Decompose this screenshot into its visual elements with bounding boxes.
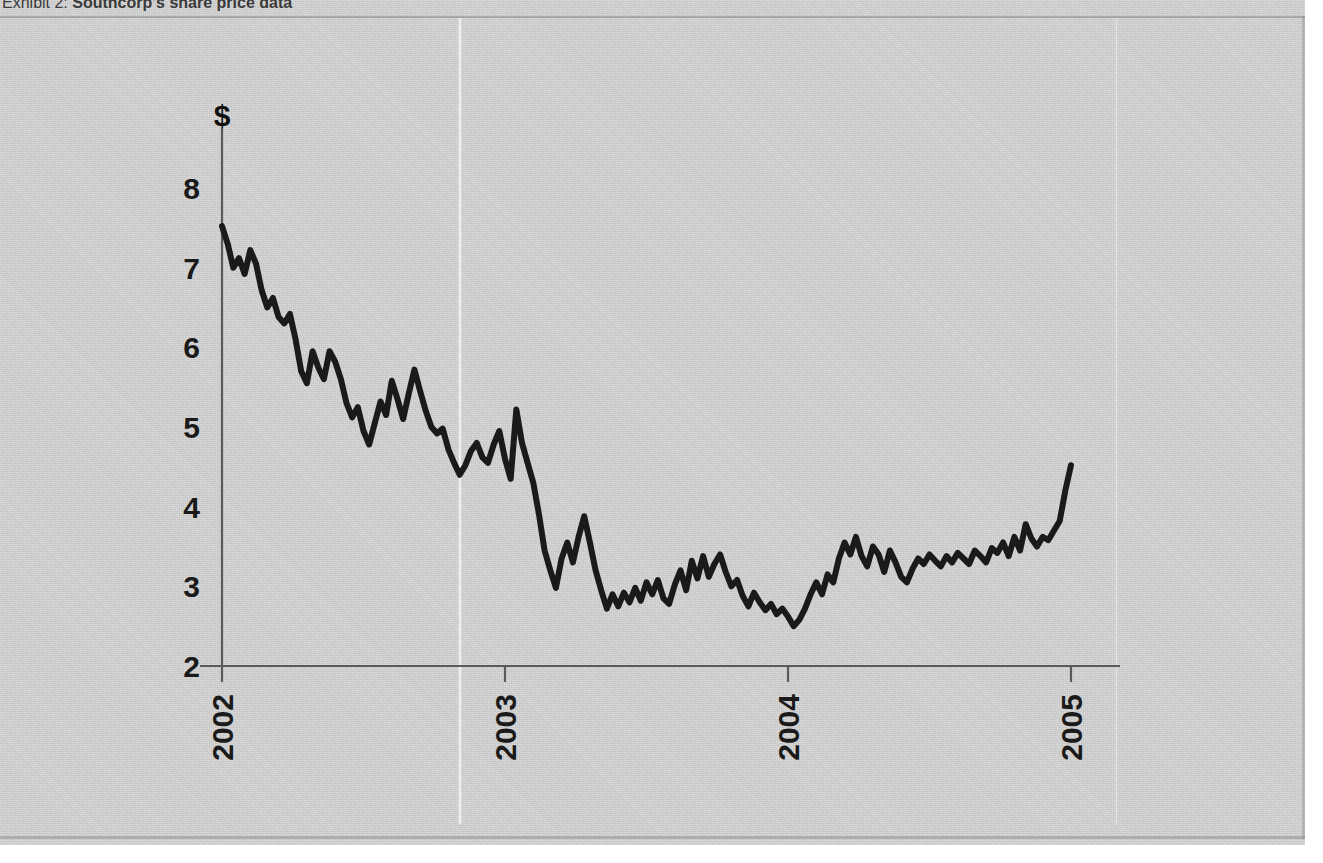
y-axis-tick-labels: 2345678 bbox=[183, 172, 200, 683]
exhibit-title: Southcorp's share price data bbox=[72, 0, 292, 11]
chart-svg: $ 2345678 2002200320042005 bbox=[0, 18, 1305, 824]
y-axis-tick-label: 7 bbox=[183, 252, 200, 285]
x-axis-tick-labels: 2002200320042005 bbox=[206, 666, 1088, 761]
y-axis-tick-label: 3 bbox=[183, 570, 200, 603]
y-axis-tick-label: 4 bbox=[183, 491, 200, 524]
y-axis-tick-label: 2 bbox=[183, 650, 200, 683]
x-axis-tick-label: 2005 bbox=[1055, 694, 1088, 761]
exhibit-label: Exhibit 2: bbox=[2, 0, 68, 11]
share-price-chart: $ 2345678 2002200320042005 bbox=[0, 18, 1305, 824]
x-axis-tick-label: 2003 bbox=[489, 694, 522, 761]
y-axis-tick-label: 6 bbox=[183, 331, 200, 364]
scanned-page: $ 2345678 2002200320042005 bbox=[0, 0, 1305, 845]
x-axis-tick-label: 2002 bbox=[206, 694, 239, 761]
page-bottom-rule bbox=[0, 836, 1305, 839]
y-axis-tick-label: 5 bbox=[183, 411, 200, 444]
price-series-line bbox=[222, 226, 1071, 626]
y-axis-unit-label: $ bbox=[214, 99, 231, 132]
page-title: Exhibit 2: Southcorp's share price data bbox=[2, 0, 292, 12]
x-axis-tick-label: 2004 bbox=[772, 694, 805, 761]
y-axis-tick-label: 8 bbox=[183, 172, 200, 205]
